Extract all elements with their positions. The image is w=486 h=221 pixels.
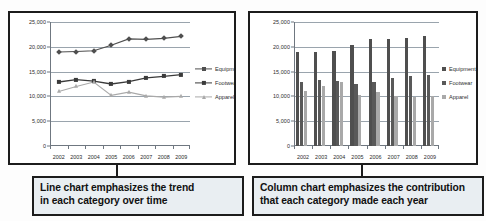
legend-item-footwear[interactable]: Footwear (442, 80, 476, 86)
data-point-marker-apparel (144, 94, 148, 98)
column-chart-caption-line-1: Column chart emphasizes the contribution (260, 182, 477, 195)
y-axis-tick-label: 15,000 (273, 69, 290, 75)
y-axis-tick-label: 0 (43, 143, 46, 149)
bar-equipment-2005 (350, 45, 353, 146)
line-chart-canvas: 05,00010,00015,00020,00025,000 200220032… (10, 13, 234, 163)
bar-apparel-2008 (413, 97, 416, 146)
data-point-marker-apparel (57, 89, 61, 93)
y-axis-tick-mark (291, 46, 294, 47)
bar-equipment-2009 (423, 36, 426, 146)
x-axis-tick-mark (312, 146, 313, 149)
x-axis-tick-label: 2006 (369, 154, 381, 160)
line-chart-caption-line-2: in each category over time (40, 195, 237, 208)
bar-apparel-2009 (431, 96, 434, 146)
bar-equipment-2002 (296, 52, 299, 146)
x-axis-tick-label: 2003 (315, 154, 327, 160)
line-chart-plot-area: 05,00010,00015,00020,00025,000 200220032… (50, 22, 190, 146)
column-chart-panel: 05,00010,00015,00020,00025,000 200220032… (248, 11, 478, 165)
data-point-marker-apparel (92, 80, 96, 84)
bar-equipment-2004 (332, 51, 335, 146)
bar-footwear-2009 (427, 75, 430, 146)
data-point-marker-apparel (127, 90, 131, 94)
bar-footwear-2006 (372, 82, 375, 146)
data-point-marker-apparel (109, 93, 113, 97)
x-axis-tick-mark (330, 146, 331, 149)
line-chart-legend: EquipmentFootwearApparel (195, 66, 234, 100)
legend-swatch-icon-equipment (442, 67, 446, 71)
legend-swatch-icon-footwear (442, 81, 446, 85)
legend-marker-icon-equipment (195, 66, 212, 72)
x-axis-tick-mark (385, 146, 386, 149)
bar-footwear-2004 (336, 81, 339, 146)
y-axis-tick-mark (291, 96, 294, 97)
legend-label: Equipment (449, 66, 476, 72)
y-axis-tick-label: 20,000 (273, 44, 290, 50)
y-axis-tick-label: 25,000 (273, 19, 290, 25)
y-axis-tick-label: 10,000 (29, 93, 46, 99)
bar-footwear-2003 (318, 80, 321, 146)
line-chart-panel: 05,00010,00015,00020,00025,000 200220032… (8, 11, 236, 165)
x-axis-tick-label: 2004 (333, 154, 345, 160)
bar-apparel-2005 (358, 95, 361, 146)
legend-item-apparel[interactable]: Apparel (442, 94, 476, 100)
legend-item-equipment[interactable]: Equipment (195, 66, 234, 72)
y-axis-tick-mark (291, 22, 294, 23)
y-axis-tick-label: 5,000 (276, 118, 290, 124)
legend-marker-icon-footwear (195, 80, 212, 86)
column-chart-caption: Column chart emphasizes the contribution… (252, 176, 484, 216)
legend-item-equipment[interactable]: Equipment (442, 66, 476, 72)
bar-footwear-2002 (300, 82, 303, 146)
x-axis-tick-label: 2008 (406, 154, 418, 160)
y-axis-tick-label: 25,000 (29, 19, 46, 25)
column-chart-plot-area: 05,00010,00015,00020,00025,000 200220032… (294, 22, 439, 146)
bar-apparel-2006 (376, 92, 379, 146)
bar-apparel-2007 (394, 96, 397, 146)
bar-equipment-2007 (387, 39, 390, 146)
data-point-marker-footwear (109, 82, 113, 86)
legend-label: Apparel (215, 94, 234, 100)
data-point-marker-footwear (57, 80, 61, 84)
y-axis-tick-label: 20,000 (29, 44, 46, 50)
gridline (294, 22, 439, 23)
bar-equipment-2006 (369, 39, 372, 146)
data-point-marker-footwear (74, 77, 78, 81)
bar-footwear-2007 (391, 78, 394, 146)
x-axis-tick-label: 2005 (351, 154, 363, 160)
y-axis-tick-label: 5,000 (32, 118, 46, 124)
y-axis-tick-label: 0 (287, 143, 290, 149)
legend-label: Footwear (215, 80, 234, 86)
line-chart-caption: Line chart emphasizes the trend in each … (32, 176, 244, 216)
bar-equipment-2003 (314, 52, 317, 146)
y-axis-tick-label: 10,000 (273, 93, 290, 99)
bar-equipment-2008 (405, 38, 408, 146)
legend-marker-icon-apparel (195, 94, 212, 100)
x-axis-tick-label: 2002 (297, 154, 309, 160)
data-point-marker-footwear (162, 74, 166, 78)
data-point-marker-footwear (127, 79, 131, 83)
x-axis-tick-mark (421, 146, 422, 149)
x-axis-tick-mark (348, 146, 349, 149)
bar-apparel-2004 (340, 82, 343, 146)
legend-label: Apparel (449, 94, 468, 100)
data-point-marker-apparel (179, 94, 183, 98)
y-axis-tick-label: 15,000 (29, 69, 46, 75)
column-chart-legend: EquipmentFootwearApparel (442, 66, 476, 100)
x-axis-tick-mark (403, 146, 404, 149)
bar-footwear-2008 (409, 76, 412, 146)
data-point-marker-footwear (144, 76, 148, 80)
legend-label: Footwear (449, 80, 472, 86)
column-chart-y-axis (294, 22, 295, 146)
legend-label: Equipment (215, 66, 234, 72)
x-axis-tick-mark (294, 146, 295, 149)
data-point-marker-footwear (179, 72, 183, 76)
column-chart-caption-line-2: that each category made each year (260, 195, 477, 208)
data-point-marker-apparel (74, 84, 78, 88)
line-chart-caption-line-1: Line chart emphasizes the trend (40, 182, 237, 195)
x-axis-tick-label: 2007 (388, 154, 400, 160)
legend-item-footwear[interactable]: Footwear (195, 80, 234, 86)
legend-item-apparel[interactable]: Apparel (195, 94, 234, 100)
gridline (294, 47, 439, 48)
x-axis-tick-label: 2009 (424, 154, 436, 160)
x-axis-tick-mark (367, 146, 368, 149)
bar-apparel-2003 (322, 86, 325, 146)
